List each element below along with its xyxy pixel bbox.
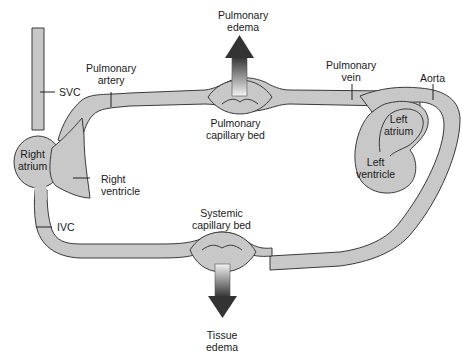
tissue-edema-arrow: [208, 264, 237, 318]
label-ivc: IVC: [57, 221, 75, 233]
label-tissue-edema: Tissueedema: [206, 329, 238, 353]
label-left-atrium: Leftatrium: [384, 113, 413, 137]
circulation-diagram: Pulmonaryedema Pulmonaryartery Pulmonary…: [0, 0, 462, 359]
label-right-ventricle: Rightventricle: [101, 173, 140, 197]
label-pulmonary-capillary-bed: Pulmonarycapillary bed: [206, 117, 265, 141]
ivc-vessel: [34, 180, 47, 200]
label-pulmonary-artery: Pulmonaryartery: [86, 62, 136, 86]
label-pulmonary-vein: Pulmonaryvein: [326, 59, 376, 83]
label-pulmonary-edema: Pulmonaryedema: [218, 9, 268, 33]
label-systemic-capillary-bed: Systemiccapillary bed: [192, 207, 251, 231]
label-left-ventricle: Leftventricle: [356, 156, 395, 180]
label-right-atrium: Rightatrium: [18, 148, 47, 172]
vena-cava-trunk: [32, 28, 44, 130]
label-aorta: Aorta: [420, 72, 445, 84]
label-svc: SVC: [59, 86, 81, 98]
